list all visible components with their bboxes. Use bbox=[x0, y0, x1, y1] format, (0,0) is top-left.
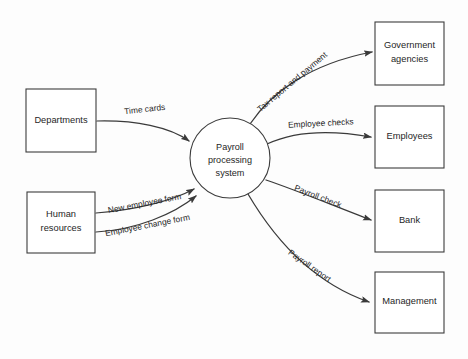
entity-label-human-resources-line2: resources bbox=[41, 223, 82, 233]
flow-label-time-cards: Time cards bbox=[124, 102, 166, 116]
external-entity-employees[interactable]: Employees bbox=[375, 106, 444, 168]
data-flow-diagram: Departments Human resources Government a… bbox=[0, 0, 468, 359]
diagram-canvas: Departments Human resources Government a… bbox=[0, 0, 468, 359]
entity-label-government-agencies-line2: agencies bbox=[391, 54, 429, 64]
entity-label-human-resources-line1: Human bbox=[46, 209, 76, 219]
process-label-line2: processing bbox=[208, 155, 252, 165]
entity-label-management: Management bbox=[382, 296, 437, 306]
process-payroll-processing-system[interactable]: Payroll processing system bbox=[190, 118, 270, 198]
process-label-line1: Payroll bbox=[216, 142, 244, 152]
flow-label-new-employee-form: New employee form bbox=[107, 191, 182, 215]
flow-label-employee-change-form: Employee change form bbox=[104, 212, 190, 238]
external-entity-government-agencies[interactable]: Government agencies bbox=[375, 22, 444, 85]
flow-label-employee-checks: Employee checks bbox=[288, 116, 354, 129]
external-entity-management[interactable]: Management bbox=[375, 272, 444, 333]
entity-label-government-agencies-line1: Government bbox=[384, 40, 436, 50]
entity-label-departments: Departments bbox=[34, 115, 88, 125]
process-label-line3: system bbox=[216, 168, 245, 178]
flow-label-tax-report-and-payment: Tax report and payment bbox=[255, 49, 329, 114]
flow-arrow-time-cards bbox=[97, 121, 189, 141]
flow-label-payroll-report: Payroll report bbox=[286, 247, 333, 284]
flow-arrow-employee-checks bbox=[267, 132, 371, 144]
entity-label-employees: Employees bbox=[387, 131, 433, 141]
external-entity-bank[interactable]: Bank bbox=[375, 190, 444, 252]
entity-label-bank: Bank bbox=[399, 215, 421, 225]
external-entity-human-resources[interactable]: Human resources bbox=[27, 192, 95, 253]
flow-arrow-payroll-report bbox=[248, 194, 369, 302]
external-entity-departments[interactable]: Departments bbox=[26, 89, 96, 152]
flow-label-payroll-check: Payroll check bbox=[293, 183, 344, 210]
